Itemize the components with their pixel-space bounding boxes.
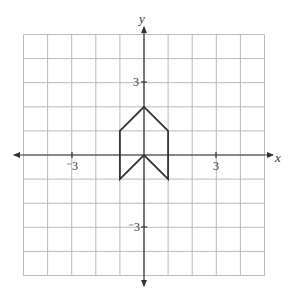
tick-label-y-pos3: 3 [133, 75, 139, 89]
coordinate-plane: ⁻3 3 3 ⁻3 x y [0, 0, 295, 296]
tick-label-x-neg3: ⁻3 [66, 159, 78, 173]
y-axis-label: y [137, 11, 145, 26]
x-axis-label: x [274, 150, 281, 165]
tick-label-x-pos3: 3 [213, 159, 219, 173]
tick-label-y-neg3: ⁻3 [128, 220, 140, 234]
